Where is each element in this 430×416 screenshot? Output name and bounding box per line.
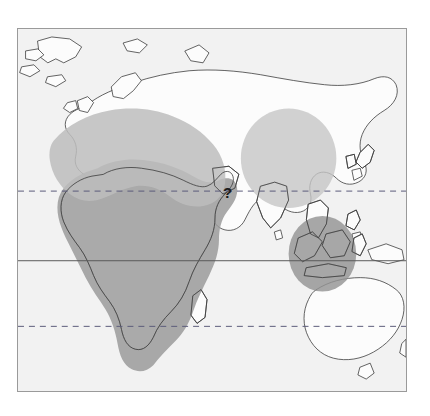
range-homo-erectus xyxy=(289,216,357,292)
range-java-shape xyxy=(289,216,357,292)
world-map-graphic xyxy=(18,29,406,391)
screenshot-root: ? Early modern humans Neanderthals Homo … xyxy=(0,0,430,416)
range-east-asia-shape xyxy=(241,109,337,208)
range-heidelbergensis-erectus xyxy=(241,109,337,208)
world-map-panel: ? Early modern humans Neanderthals Homo … xyxy=(17,28,407,392)
